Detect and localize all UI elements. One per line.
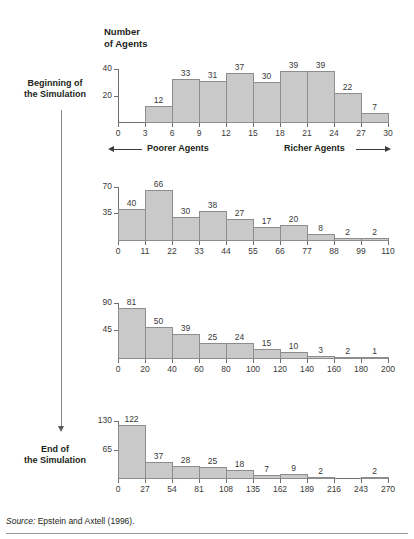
x-tick-0 <box>118 479 119 483</box>
x-tick-200 <box>388 359 389 363</box>
y-tick-label-40: 40 <box>72 63 112 73</box>
bar <box>145 106 173 123</box>
x-tick-44 <box>226 241 227 245</box>
histogram-panel-3: 4590020406080100120140160180200815039252… <box>0 280 414 378</box>
y-tick-label-70: 70 <box>72 181 112 191</box>
x-tick-33 <box>199 241 200 245</box>
x-tick-108 <box>226 479 227 483</box>
bar <box>334 357 362 359</box>
histogram-panel-2: 3570011223344556677889911040663038271720… <box>0 162 414 260</box>
y-tick-label-45: 45 <box>72 324 112 334</box>
bar-value-label: 66 <box>143 179 175 189</box>
bar <box>361 477 389 479</box>
source-text: Epstein and Axtell (1996). <box>38 516 135 526</box>
x-tick-27 <box>145 479 146 483</box>
bar <box>172 79 200 124</box>
x-tick-100 <box>253 359 254 363</box>
x-tick-0 <box>118 241 119 245</box>
x-tick-label-30: 30 <box>372 128 404 138</box>
x-tick-0 <box>118 123 119 127</box>
x-tick-140 <box>307 359 308 363</box>
x-tick-88 <box>334 241 335 245</box>
arrow-right-icon <box>385 146 391 152</box>
x-tick-6 <box>172 123 173 127</box>
bar-value-label: 2 <box>359 227 391 237</box>
x-tick-120 <box>280 359 281 363</box>
x-tick-label-200: 200 <box>372 364 404 374</box>
x-tick-15 <box>253 123 254 127</box>
y-tick-label-35: 35 <box>72 207 112 217</box>
bar-value-label: 30 <box>251 71 283 81</box>
x-tick-135 <box>253 479 254 483</box>
y-tick-label-130: 130 <box>72 415 112 425</box>
x-tick-12 <box>226 123 227 127</box>
x-tick-label-270: 270 <box>372 484 404 494</box>
bar <box>307 477 335 479</box>
histogram-panel-1: 204003691215182124273012333137303939227 <box>0 44 414 144</box>
bar <box>361 238 389 241</box>
bar-value-label: 122 <box>116 414 148 424</box>
bar-value-label: 81 <box>116 297 148 307</box>
x-tick-20 <box>145 359 146 363</box>
bar <box>172 466 200 479</box>
bar <box>334 238 362 241</box>
y-tick-label-20: 20 <box>72 90 112 100</box>
x-tick-189 <box>307 479 308 483</box>
x-tick-9 <box>199 123 200 127</box>
x-tick-18 <box>280 123 281 127</box>
bar-value-label: 2 <box>359 466 391 476</box>
source-prefix: Source: <box>6 516 35 526</box>
bar-value-label: 22 <box>332 82 364 92</box>
x-tick-180 <box>361 359 362 363</box>
x-tick-66 <box>280 241 281 245</box>
y-tick-40 <box>114 69 119 70</box>
x-tick-99 <box>361 241 362 245</box>
bar <box>172 217 200 241</box>
y-tick-70 <box>114 187 119 188</box>
x-tick-40 <box>172 359 173 363</box>
wealth-direction-band: Poorer Agents Richer Agents <box>104 143 396 159</box>
bar <box>253 82 281 123</box>
x-tick-27 <box>361 123 362 127</box>
bar <box>199 81 227 123</box>
bar-value-label: 40 <box>116 198 148 208</box>
band-line-left <box>114 149 142 150</box>
figure-root: Number of Agents Beginning of the Simula… <box>0 0 414 539</box>
bar <box>253 227 281 241</box>
bar <box>199 343 227 359</box>
y-tick-20 <box>114 96 119 97</box>
bar <box>307 71 335 123</box>
bar <box>118 209 146 241</box>
time-arrow-line <box>61 110 62 428</box>
x-tick-243 <box>361 479 362 483</box>
x-tick-label-110: 110 <box>372 246 404 256</box>
x-tick-24 <box>334 123 335 127</box>
poorer-agents-label: Poorer Agents <box>147 143 209 153</box>
x-tick-55 <box>253 241 254 245</box>
bottom-rule <box>6 533 408 534</box>
x-tick-11 <box>145 241 146 245</box>
x-tick-21 <box>307 123 308 127</box>
x-tick-22 <box>172 241 173 245</box>
x-tick-270 <box>388 479 389 483</box>
source-note: Source: Epstein and Axtell (1996). <box>6 516 135 526</box>
x-tick-81 <box>199 479 200 483</box>
bar-value-label: 2 <box>305 466 337 476</box>
y-tick-label-65: 65 <box>72 444 112 454</box>
bar <box>361 357 389 359</box>
bar-value-label: 12 <box>143 95 175 105</box>
bar <box>280 71 308 123</box>
x-tick-77 <box>307 241 308 245</box>
histogram-panel-4: 6513002754811081351621892162432701223728… <box>0 400 414 498</box>
bar-value-label: 7 <box>359 102 391 112</box>
x-tick-216 <box>334 479 335 483</box>
bar-value-label: 1 <box>359 346 391 356</box>
bar-value-label: 39 <box>305 60 337 70</box>
x-tick-80 <box>226 359 227 363</box>
bar <box>307 356 335 359</box>
x-tick-3 <box>145 123 146 127</box>
x-tick-30 <box>388 123 389 127</box>
richer-agents-label: Richer Agents <box>284 143 345 153</box>
x-tick-54 <box>172 479 173 483</box>
bar <box>253 475 281 479</box>
